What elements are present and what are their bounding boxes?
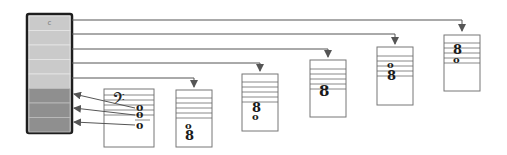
diagram-canvas: c 𝄢 o o o o 8 <box>0 0 507 155</box>
register-cell <box>29 103 70 118</box>
note: o <box>136 119 143 132</box>
register-cell <box>29 74 70 89</box>
note: 8 <box>319 82 329 100</box>
note: o <box>453 54 460 65</box>
wire-to-box4 <box>72 49 328 57</box>
note: 8 <box>387 68 396 83</box>
staff-box-3: 8 o <box>242 74 278 131</box>
register-column: c <box>27 14 72 133</box>
wire-to-box6 <box>72 20 462 31</box>
staff-box-6: 8 o <box>444 35 480 91</box>
register-cell <box>29 45 70 60</box>
staff-box-4: 8 <box>310 60 346 117</box>
register-cell <box>29 89 70 104</box>
staff-box-2: o 8 <box>176 90 212 147</box>
register-cell-label: c <box>48 19 52 27</box>
staff-box-bass: 𝄢 o o o <box>104 89 154 147</box>
staff-box-5: o 8 <box>377 47 413 105</box>
bass-clef-icon: 𝄢 <box>112 89 125 113</box>
register-cell <box>29 118 70 133</box>
wire-to-box2 <box>72 78 194 87</box>
register-cell <box>29 60 70 75</box>
note: 8 <box>185 128 194 143</box>
wire-to-box5 <box>72 34 395 44</box>
register-cell <box>29 31 70 46</box>
note: o <box>252 111 259 122</box>
wire-to-box3 <box>72 63 260 71</box>
